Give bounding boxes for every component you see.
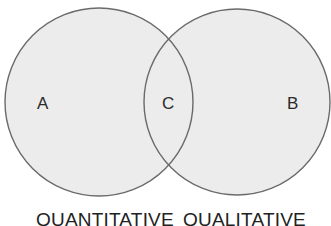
region-label-a: A bbox=[37, 95, 48, 112]
set-label-qualitative: QUALITATIVE bbox=[183, 210, 306, 226]
region-label-b: B bbox=[287, 95, 298, 112]
set-label-quantitative: QUANTITATIVE bbox=[36, 210, 174, 226]
region-label-c: C bbox=[162, 95, 174, 112]
venn-diagram bbox=[0, 0, 331, 226]
